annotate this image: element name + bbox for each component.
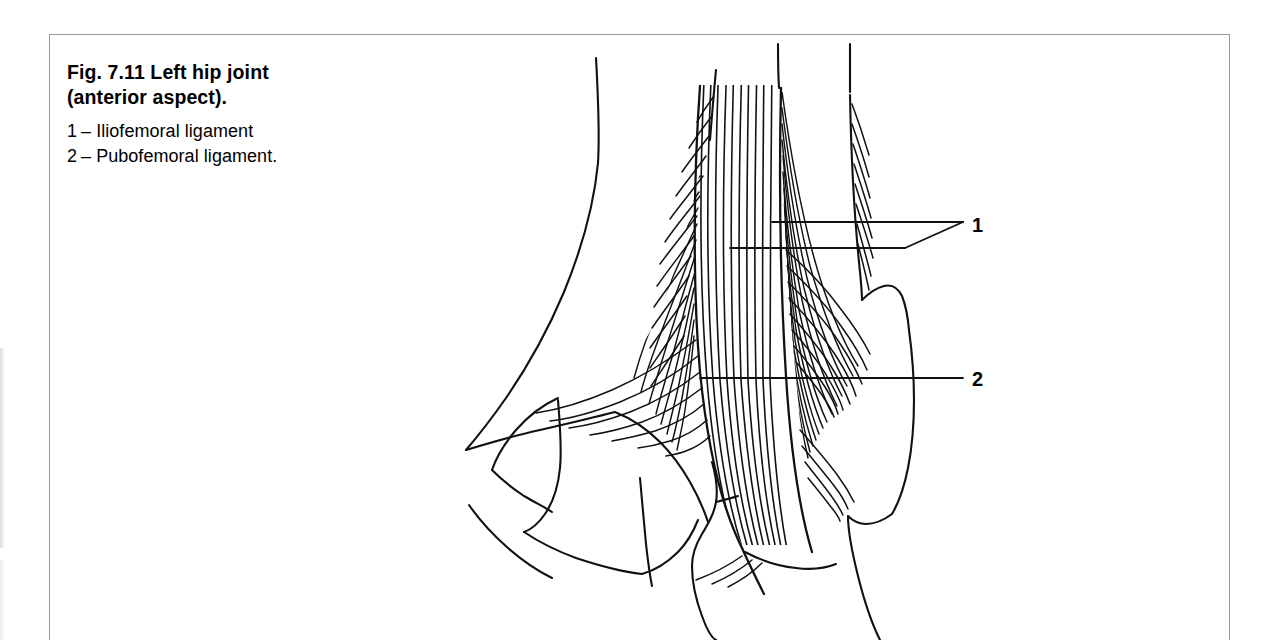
legend-item-1: 1–Iliofemoral ligament xyxy=(67,119,497,144)
legend-label-1: Iliofemoral ligament xyxy=(96,121,253,141)
legend-dash-1: – xyxy=(77,121,96,141)
figure-caption-title: Fig. 7.11 Left hip joint (anterior aspec… xyxy=(67,60,497,110)
page-background: Fig. 7.11 Left hip joint (anterior aspec… xyxy=(0,0,1281,640)
figure-caption: Fig. 7.11 Left hip joint (anterior aspec… xyxy=(67,60,497,169)
scan-edge-artifact-lower xyxy=(0,560,5,640)
scan-edge-artifact xyxy=(0,348,5,548)
legend-number-2: 2 xyxy=(67,146,77,166)
legend-label-2: Pubofemoral ligament. xyxy=(96,146,277,166)
legend-dash-2: – xyxy=(77,146,96,166)
legend-item-2: 2–Pubofemoral ligament. xyxy=(67,144,497,169)
legend-number-1: 1 xyxy=(67,121,77,141)
